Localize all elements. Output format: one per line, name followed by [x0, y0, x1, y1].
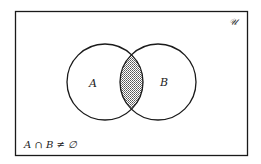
set-b-label: B	[159, 76, 168, 89]
set-a-label: A	[88, 77, 97, 90]
caption: A ∩ B ≠ ∅	[23, 139, 78, 150]
venn-diagram: A B 𝒰 A ∩ B ≠ ∅	[0, 0, 261, 164]
